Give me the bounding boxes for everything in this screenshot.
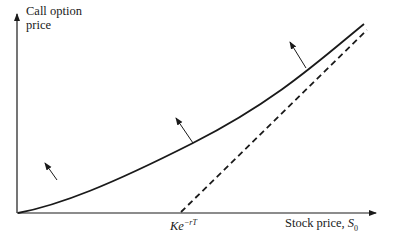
k-base: Ke xyxy=(170,219,184,233)
y-axis-label-line2: price xyxy=(26,18,51,32)
x-axis-label: Stock price, S0 xyxy=(285,216,358,236)
call-price-curve xyxy=(18,24,364,213)
direction-arrow-icon xyxy=(45,163,57,180)
strike-pv-tick-label: Ke−rT xyxy=(170,216,197,233)
k-exponent: −rT xyxy=(184,218,197,227)
option-price-diagram xyxy=(0,0,397,242)
x-axis-subscript: 0 xyxy=(354,224,358,233)
direction-arrow-icon xyxy=(176,118,193,143)
x-axis-label-text: Stock price, xyxy=(285,216,348,230)
y-axis-label-line1: Call option xyxy=(26,4,82,18)
lower-bound-dashed-line xyxy=(181,30,367,212)
y-axis-label: Call option price xyxy=(26,4,116,32)
direction-arrow-icon xyxy=(290,42,306,68)
